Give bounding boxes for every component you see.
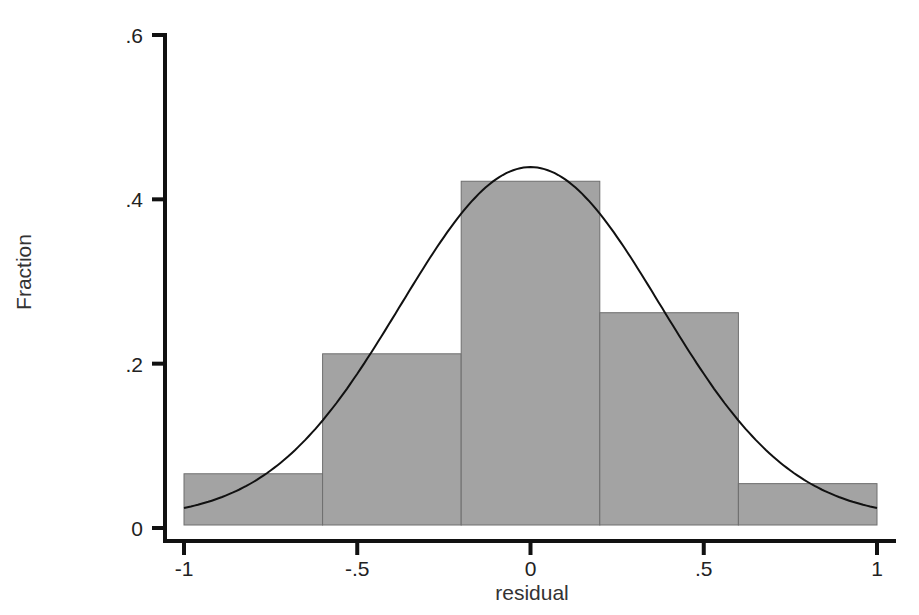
histogram-chart: 0.2.4.6 -1-.50.51 residual Fraction (0, 0, 919, 615)
histogram-bar (323, 354, 462, 525)
histogram-bar (600, 313, 739, 525)
histogram-bars (184, 181, 877, 525)
y-tick-label: .2 (125, 353, 143, 376)
x-tick-label: 1 (871, 557, 883, 580)
histogram-bar (738, 484, 877, 525)
x-tick-label: -.5 (345, 557, 370, 580)
x-axis-ticks: -1-.50.51 (175, 541, 883, 580)
x-tick-label: 0 (525, 557, 537, 580)
x-tick-label: .5 (695, 557, 713, 580)
y-tick-label: .4 (125, 188, 143, 211)
x-axis-title: residual (495, 581, 569, 604)
histogram-bar (461, 181, 600, 525)
y-axis-title: Fraction (12, 234, 35, 310)
y-axis-ticks: 0.2.4.6 (125, 24, 165, 540)
y-tick-label: 0 (131, 517, 143, 540)
y-tick-label: .6 (125, 24, 143, 47)
x-tick-label: -1 (175, 557, 194, 580)
